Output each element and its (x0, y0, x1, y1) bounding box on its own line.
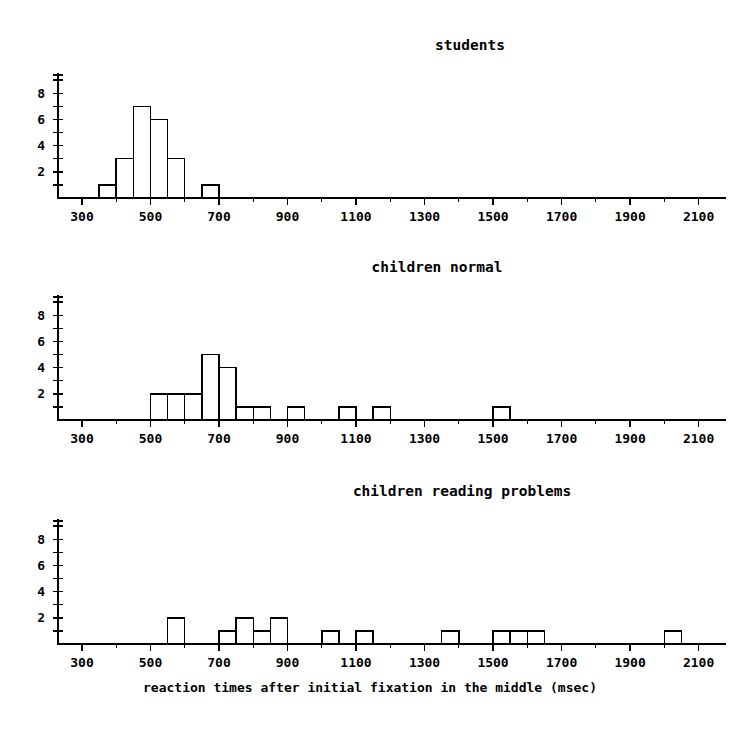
y-tick-label: 2 (37, 386, 45, 401)
x-axis-labels: 300500700900110013001500170019002100 (70, 431, 714, 446)
x-tick-label: 300 (70, 431, 94, 446)
bar-group (202, 185, 219, 198)
bar-group (150, 355, 270, 421)
histogram-bars (150, 355, 510, 421)
y-tick-label: 2 (37, 610, 45, 625)
bar-group (664, 631, 681, 644)
y-tick-label: 6 (37, 334, 45, 349)
x-tick-label: 1300 (409, 655, 440, 670)
x-tick-label: 900 (276, 209, 300, 224)
x-tick-label: 1700 (546, 209, 577, 224)
y-tick-label: 4 (37, 138, 45, 153)
x-tick-label: 1500 (477, 655, 508, 670)
panel-3: children reading problems246830050070090… (0, 480, 745, 698)
y-axis-labels: 2468 (37, 86, 45, 180)
y-axis-labels: 2468 (37, 532, 45, 626)
x-tick-label: 2100 (683, 431, 714, 446)
x-tick-label: 500 (139, 655, 163, 670)
x-tick-label: 900 (276, 431, 300, 446)
x-tick-label: 700 (207, 431, 231, 446)
bar-group (168, 618, 185, 644)
x-tick-label: 1300 (409, 431, 440, 446)
x-tick-label: 1900 (614, 655, 645, 670)
x-tick-label: 1500 (477, 431, 508, 446)
x-axis-caption: reaction times after initial fixation in… (143, 680, 597, 695)
x-axis-minor-ticks (82, 644, 699, 651)
y-tick-label: 4 (37, 360, 45, 375)
x-axis-minor-ticks (82, 420, 699, 427)
x-tick-label: 2100 (683, 655, 714, 670)
x-tick-label: 900 (276, 655, 300, 670)
y-tick-label: 6 (37, 112, 45, 127)
x-axis-labels: 300500700900110013001500170019002100 (70, 655, 714, 670)
axes (58, 295, 726, 420)
x-tick-label: 1900 (614, 209, 645, 224)
bar-group (373, 407, 390, 420)
histogram-bars (168, 618, 682, 644)
bar-group (288, 407, 305, 420)
x-tick-label: 1900 (614, 431, 645, 446)
bar-group (442, 631, 459, 644)
x-tick-label: 300 (70, 655, 94, 670)
x-tick-label: 1100 (340, 655, 371, 670)
bar-group (493, 631, 544, 644)
panel-title: children reading problems (353, 483, 571, 499)
x-tick-label: 1300 (409, 209, 440, 224)
panel-1: students24683005007009001100130015001700… (0, 34, 745, 252)
x-tick-label: 1700 (546, 431, 577, 446)
bar-group (322, 631, 339, 644)
x-axis-caption-area: reaction times after initial fixation in… (0, 676, 745, 710)
x-axis-minor-ticks (82, 198, 699, 205)
x-tick-label: 500 (139, 209, 163, 224)
x-tick-label: 300 (70, 209, 94, 224)
bar-group (356, 631, 373, 644)
x-tick-label: 2100 (683, 209, 714, 224)
histogram-bars (99, 106, 219, 198)
x-tick-label: 700 (207, 209, 231, 224)
histogram-figure: students24683005007009001100130015001700… (0, 0, 745, 729)
panel-2: children normal2468300500700900110013001… (0, 256, 745, 474)
x-tick-label: 700 (207, 655, 231, 670)
axes (58, 73, 726, 198)
axes (58, 519, 726, 644)
y-tick-label: 6 (37, 558, 45, 573)
x-axis-labels: 300500700900110013001500170019002100 (70, 209, 714, 224)
x-tick-label: 1100 (340, 431, 371, 446)
bar-group (339, 407, 356, 420)
bar-group (493, 407, 510, 420)
y-tick-label: 8 (37, 308, 45, 323)
y-tick-label: 8 (37, 86, 45, 101)
x-tick-label: 1700 (546, 655, 577, 670)
y-tick-label: 4 (37, 584, 45, 599)
y-tick-label: 8 (37, 532, 45, 547)
y-tick-label: 2 (37, 164, 45, 179)
panel-title: children normal (372, 259, 503, 275)
bar-group (99, 106, 185, 198)
x-tick-label: 1500 (477, 209, 508, 224)
x-tick-label: 500 (139, 431, 163, 446)
x-tick-label: 1100 (340, 209, 371, 224)
panel-title: students (435, 37, 505, 53)
y-axis-labels: 2468 (37, 308, 45, 402)
